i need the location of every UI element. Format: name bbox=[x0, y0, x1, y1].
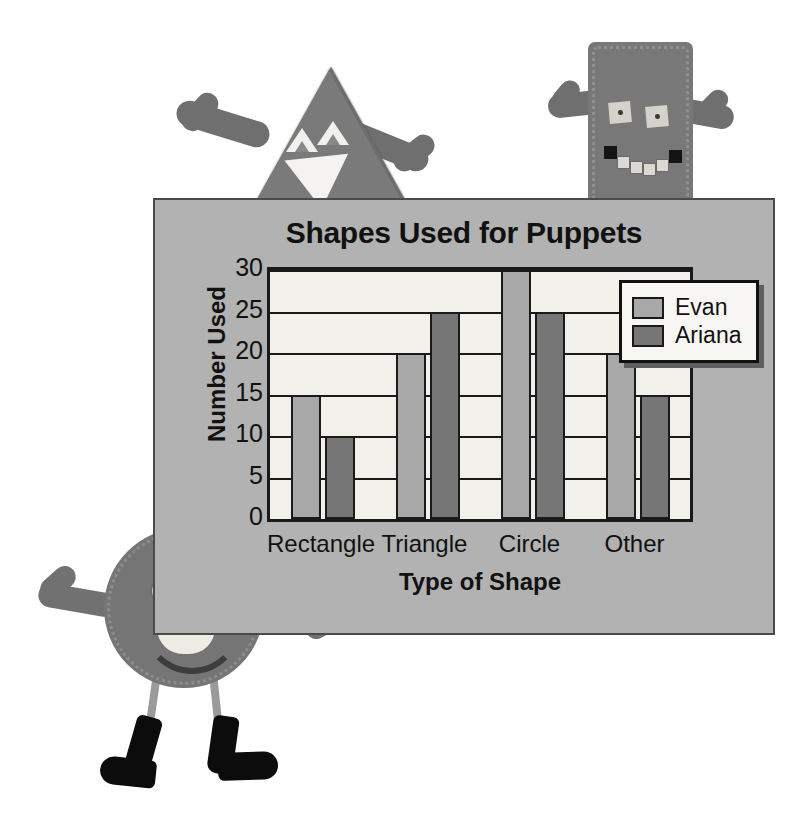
rectangle-puppet-tooth bbox=[669, 150, 682, 163]
bar-ariana-other bbox=[640, 395, 670, 520]
bar-ariana-rectangle bbox=[325, 436, 355, 519]
rectangle-puppet-tooth bbox=[656, 159, 669, 172]
bar-ariana-triangle bbox=[430, 312, 460, 520]
bar-evan-circle bbox=[501, 270, 531, 519]
y-tick-label: 5 bbox=[217, 463, 263, 488]
rectangle-puppet-tooth bbox=[643, 163, 656, 176]
triangle-puppet-right-pupil bbox=[326, 134, 340, 145]
rectangle-puppet-tooth bbox=[617, 156, 630, 169]
legend-item-evan: Evan bbox=[632, 296, 746, 319]
bar-evan-triangle bbox=[396, 353, 426, 519]
x-tick-label-rectangle: Rectangle bbox=[267, 530, 372, 558]
x-axis-ticks: RectangleTriangleCircleOther bbox=[267, 530, 693, 560]
bar-group bbox=[270, 270, 375, 519]
bar-evan-other bbox=[606, 353, 636, 519]
triangle-puppet bbox=[175, 45, 445, 210]
rectangle-puppet bbox=[548, 28, 728, 210]
x-tick-label-other: Other bbox=[582, 530, 687, 558]
y-tick-label: 0 bbox=[217, 504, 263, 529]
y-tick-label: 25 bbox=[217, 297, 263, 322]
x-axis-label: Type of Shape bbox=[267, 568, 693, 596]
y-tick-label: 20 bbox=[217, 338, 263, 363]
bar-group bbox=[375, 270, 480, 519]
rectangle-puppet-left-eye bbox=[608, 101, 632, 124]
y-tick-label: 15 bbox=[217, 380, 263, 405]
bar-chart-panel: Shapes Used for Puppets Number Used 0510… bbox=[153, 198, 775, 635]
legend-label-ariana: Ariana bbox=[675, 324, 741, 347]
bar-evan-rectangle bbox=[291, 395, 321, 520]
circle-puppet-left-boot-foot bbox=[99, 755, 158, 789]
legend-swatch-ariana bbox=[632, 325, 664, 347]
bar-group bbox=[480, 270, 585, 519]
y-axis-ticks: 051015202530 bbox=[213, 200, 263, 600]
rectangle-puppet-tooth bbox=[604, 146, 617, 159]
triangle-puppet-left-pupil bbox=[295, 141, 309, 152]
legend-item-ariana: Ariana bbox=[632, 324, 746, 347]
chart-legend: EvanAriana bbox=[619, 280, 759, 363]
x-tick-label-circle: Circle bbox=[477, 530, 582, 558]
bar-ariana-circle bbox=[535, 312, 565, 520]
legend-swatch-evan bbox=[632, 297, 664, 319]
legend-label-evan: Evan bbox=[675, 296, 727, 319]
rectangle-puppet-tooth bbox=[630, 161, 643, 174]
rectangle-puppet-stitching bbox=[592, 46, 689, 206]
circle-puppet-right-boot-foot bbox=[218, 751, 279, 781]
y-tick-label: 30 bbox=[217, 255, 263, 280]
x-tick-label-triangle: Triangle bbox=[372, 530, 477, 558]
y-tick-label: 10 bbox=[217, 421, 263, 446]
rectangle-puppet-right-eye bbox=[645, 105, 669, 128]
